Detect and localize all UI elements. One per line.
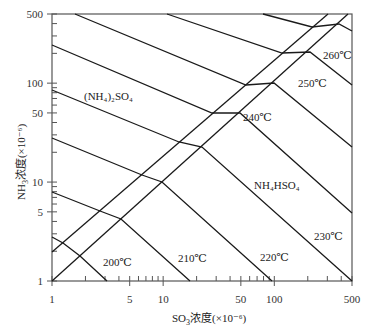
x-tick-label: 100 (266, 293, 283, 305)
y-axis-title: NH3浓度(×10⁻⁶) (14, 124, 30, 200)
y-tick-label: 100 (27, 77, 44, 89)
y-tick-label: 10 (32, 176, 44, 188)
phase-diagram-chart: 151050100500151050100500 (NH₄)₂SO₄ NH₄HS… (0, 0, 369, 333)
label-200c: 200℃ (103, 256, 132, 268)
y-tick-label: 5 (38, 206, 44, 218)
label-220c: 220℃ (260, 251, 289, 263)
y-tick-label: 1 (38, 275, 44, 287)
x-tick-label: 10 (158, 293, 170, 305)
lower-diagonal-line (52, 14, 348, 281)
label-230c: 230℃ (314, 230, 343, 242)
x-tick-label: 5 (127, 293, 133, 305)
y-axis-title-suffix: 浓度(×10⁻⁶) (14, 124, 28, 181)
y-tick-label: 500 (27, 8, 44, 20)
x-tick-label: 500 (344, 293, 361, 305)
isotherm-line (52, 45, 352, 213)
x-tick-label: 1 (49, 293, 55, 305)
label-240c: 240℃ (243, 111, 272, 123)
label-260c: 260℃ (323, 49, 352, 61)
y-tick-label: 50 (32, 107, 44, 119)
boundary-lines (52, 14, 348, 281)
isotherm-line (52, 138, 272, 281)
upper-diagonal-line (52, 14, 328, 252)
region-label-ammonium-sulfate: (NH₄)₂SO₄ (84, 90, 133, 103)
y-axis-title-prefix: NH (15, 184, 27, 200)
x-tick-label: 50 (235, 293, 247, 305)
label-250c: 250℃ (298, 77, 327, 89)
region-label-ammonium-bisulfate: NH₄HSO₄ (254, 179, 300, 191)
label-210c: 210℃ (178, 252, 207, 264)
x-axis-title-prefix: SO (172, 312, 186, 324)
x-axis-title: SO3浓度(×10⁻⁶) (172, 311, 247, 327)
x-axis-title-suffix: 浓度(×10⁻⁶) (190, 311, 247, 325)
